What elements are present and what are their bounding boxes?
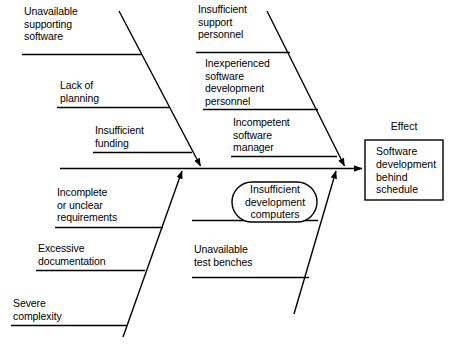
- cause-label-incomplete-or-unclear-requirements: Incomplete or unclear requirements: [57, 186, 117, 224]
- fishbone-diagram: Unavailable supporting software Lack of …: [0, 0, 454, 347]
- cause-label-insufficient-funding: Insufficient funding: [95, 124, 144, 149]
- cause-label-excessive-documentation: Excessive documentation: [38, 242, 106, 267]
- cause-label-unavailable-test-benches: Unavailable test benches: [194, 243, 252, 268]
- cause-label-insufficient-development-computers: Insufficient development computers: [232, 183, 318, 221]
- effect-box-text: Software development behind schedule: [376, 145, 436, 196]
- cause-label-unavailable-supporting-software: Unavailable supporting software: [24, 5, 78, 43]
- cause-label-incompetent-software-manager: Incompetent software manager: [233, 116, 290, 154]
- cause-label-severe-complexity: Severe complexity: [13, 297, 62, 322]
- cause-label-inexperienced-software-development-personnel: Inexperienced software development perso…: [205, 57, 270, 107]
- effect-title: Effect: [364, 120, 444, 132]
- cause-label-lack-of-planning: Lack of planning: [60, 79, 99, 104]
- category-bone-lower-left: [123, 171, 182, 337]
- cause-label-insufficient-support-personnel: Insufficient support personnel: [198, 3, 247, 41]
